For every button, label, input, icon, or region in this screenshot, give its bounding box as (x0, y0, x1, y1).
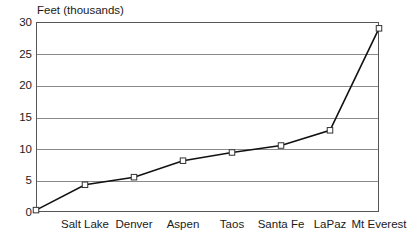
y-axis-tick-label: 25 (2, 48, 32, 60)
gridline (37, 181, 378, 182)
x-axis-tick-label: Mt Everest (352, 217, 407, 231)
gridline (37, 118, 378, 119)
y-axis-tick-label: 15 (2, 111, 32, 123)
gridline (37, 86, 378, 87)
y-axis-tick-labels: 051015202530 (0, 22, 32, 212)
line-chart: Feet (thousands) 051015202530 Salt LakeD… (0, 0, 411, 244)
x-axis-tick-label: Santa Fe (258, 217, 305, 231)
y-axis-tick-label: 10 (2, 143, 32, 155)
y-axis-tick-label: 30 (2, 16, 32, 28)
plot-area (36, 22, 379, 212)
x-axis-tick-label: Salt Lake (61, 217, 109, 231)
x-axis-tick-label: Taos (220, 217, 244, 231)
y-axis-tick-label: 5 (2, 174, 32, 186)
y-axis-tick-label: 20 (2, 79, 32, 91)
gridline (37, 54, 378, 55)
gridline (37, 149, 378, 150)
x-axis-tick-label: Denver (115, 217, 152, 231)
x-axis-tick-labels: Salt LakeDenverAspenTaosSanta FeLaPazMt … (0, 217, 411, 237)
x-axis-tick-label: LaPaz (314, 217, 347, 231)
x-axis-tick-label: Aspen (167, 217, 200, 231)
chart-axis-title: Feet (thousands) (37, 4, 124, 17)
